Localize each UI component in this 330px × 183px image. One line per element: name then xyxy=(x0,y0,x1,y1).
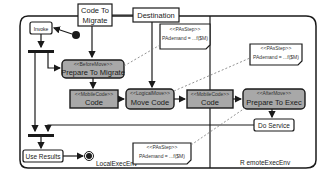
prepare-to-migrate-label: Prepare To Migrate xyxy=(61,68,125,77)
note-link-right xyxy=(174,58,250,91)
prepare-to-exec-label: Prepare To Exec xyxy=(246,98,302,107)
note-right[interactable]: <<PAsStep>> PAdemand = ...f($M) xyxy=(250,44,302,65)
note-right-text: PAdemand = ...f($M) xyxy=(253,54,299,60)
code-to-migrate-line1: Code To xyxy=(81,6,109,15)
note-bottom-text: PAdemand = ...f($M) xyxy=(139,153,185,159)
note-top-stereotype: <<PAsStep>> xyxy=(170,26,201,32)
prepare-to-migrate-stereotype: <<BeforeMove>> xyxy=(74,61,113,67)
note-top[interactable]: <<PAsStep>> PAdemand = ...f($M) xyxy=(160,24,210,49)
use-results-label: Use Results xyxy=(25,153,61,160)
note-bottom-stereotype: <<PAsStep>> xyxy=(147,144,178,150)
action-do-service[interactable]: Do Service xyxy=(254,119,294,131)
destination-label: Destination xyxy=(137,11,175,20)
object-code-to-migrate[interactable]: Code To Migrate xyxy=(78,4,112,26)
note-link-bottom xyxy=(191,108,245,145)
note-link-top xyxy=(124,45,160,66)
action-invoke[interactable]: Invoke xyxy=(30,22,52,34)
activity-diagram: Code To Migrate Destination Invoke <<Bef… xyxy=(0,0,330,183)
action-prepare-to-migrate[interactable]: <<BeforeMove>> Prepare To Migrate xyxy=(61,60,125,78)
code-remote-stereotype: <<MobileCode>> xyxy=(191,91,229,97)
initial-node xyxy=(72,31,80,39)
code-to-migrate-line2: Migrate xyxy=(82,16,107,25)
do-service-label: Do Service xyxy=(258,122,290,129)
note-bottom[interactable]: <<PAsStep>> PAdemand = ...f($M) xyxy=(133,143,191,164)
move-code-label: Move Code xyxy=(131,98,169,107)
note-right-stereotype: <<PAsStep>> xyxy=(261,45,292,51)
action-code-local[interactable]: <<MobileCode>> Code xyxy=(70,90,118,108)
action-move-code[interactable]: <<LogicalMove>> Move Code xyxy=(126,89,174,109)
join-bar xyxy=(28,134,54,137)
partition-remote-label: R emoteExecEnv xyxy=(240,159,291,166)
note-top-text: PAdemand = ...f($M) xyxy=(162,35,208,41)
code-remote-label: Code xyxy=(201,98,219,107)
action-prepare-to-exec[interactable]: <<AfterMove>> Prepare To Exec xyxy=(243,89,305,109)
final-node xyxy=(85,152,94,161)
move-code-stereotype: <<LogicalMove>> xyxy=(130,90,170,96)
object-destination[interactable]: Destination xyxy=(133,8,179,22)
prepare-to-exec-stereotype: <<AfterMove>> xyxy=(257,90,292,96)
action-code-remote[interactable]: <<MobileCode>> Code xyxy=(187,90,233,108)
invoke-label: Invoke xyxy=(34,26,49,32)
code-local-label: Code xyxy=(85,98,103,107)
code-local-stereotype: <<MobileCode>> xyxy=(75,91,113,97)
action-use-results[interactable]: Use Results xyxy=(23,150,63,162)
partition-local-label: LocalExecEnv xyxy=(96,160,138,167)
fork-bar xyxy=(28,50,54,53)
